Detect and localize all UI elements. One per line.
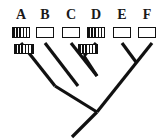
state-box-c: [62, 27, 80, 38]
node-marker-left: [14, 44, 34, 54]
node-marker-right: [78, 44, 98, 54]
taxon-label-b: B: [37, 8, 53, 22]
branch-root: [55, 86, 97, 112]
taxon-label-e: E: [114, 8, 130, 22]
taxon-label-a: A: [13, 8, 29, 22]
state-box-f: [138, 27, 156, 38]
cladogram-figure: A B C D E F: [0, 0, 163, 139]
state-box-a: [12, 27, 30, 38]
branch-D-down: [84, 56, 97, 76]
taxon-label-f: F: [139, 8, 155, 22]
state-box-b: [36, 27, 54, 38]
state-box-e: [113, 27, 131, 38]
state-box-d: [87, 27, 105, 38]
branch-F: [97, 43, 152, 112]
branch-E: [122, 43, 136, 62]
taxon-label-c: C: [63, 8, 79, 22]
branch-stem: [72, 112, 97, 137]
taxon-label-d: D: [88, 8, 104, 22]
